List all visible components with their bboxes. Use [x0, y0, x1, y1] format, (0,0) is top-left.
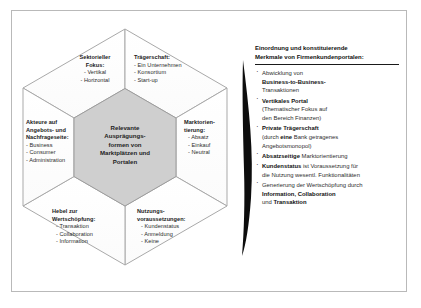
segment-label-marktorientierung: Marktorien- tierung: - Absatz - Einkauf …: [184, 119, 228, 157]
segment-label-hebel-zur-wertschoepfung: Hebel zur Wertschöpfung: - Transaktion -…: [52, 208, 122, 246]
segment-item: - Keine: [137, 238, 207, 246]
segment-item: - Einkauf: [184, 142, 228, 150]
center-hexagon-label: Relevante Ausprägungs- formen von Marktp…: [75, 124, 175, 166]
list-item: Generierung der Wertschöpfung durch Info…: [255, 181, 405, 207]
segment-title-line: Sektorieller: [65, 54, 125, 62]
segment-item: - Konsortium: [134, 69, 212, 77]
center-label-line: Marktplätzen und: [75, 149, 175, 157]
figure-root: Sektorieller Fokus: - Vertikal - Horizon…: [0, 0, 421, 308]
segment-title-line: tierung:: [184, 127, 228, 135]
bullet-line: Absatzseitige Marktorientierung: [262, 152, 405, 161]
list-item: Vertikales Portal (Thematischer Fokus au…: [255, 97, 405, 123]
segment-item: - Horizontal: [65, 77, 125, 85]
panel-title: Einordnung und konstituierende Merkmale …: [255, 44, 405, 62]
list-item: Kundenstatus ist Voraussetzung für die N…: [255, 162, 405, 179]
segment-title-line: Trägerschaft:: [134, 54, 212, 62]
bullet-line: die Nutzung wesentl. Funktionalitäten: [262, 171, 405, 180]
segment-label-sektorieller-fokus: Sektorieller Fokus: - Vertikal - Horizon…: [65, 54, 125, 84]
bullet-line: Kundenstatus ist Voraussetzung für: [262, 162, 405, 171]
segment-title-line: Wertschöpfung:: [52, 216, 122, 224]
segment-item: - Start-up: [134, 77, 212, 85]
bullet-line: Transaktionen: [262, 86, 405, 95]
panel-title-line: Merkmale von Firmenkundenportalen:: [255, 53, 405, 62]
segment-label-nutzungsvoraussetzungen: Nutzungs- voraussetzungen: - Kundenstatu…: [137, 208, 207, 246]
segment-item: - Transaktion: [52, 223, 122, 231]
bullet-line: Business-to-Business-: [262, 78, 405, 87]
center-label-line: Relevante: [75, 124, 175, 132]
bullet-line: Information, Collaboration: [262, 190, 405, 199]
segment-label-traegerschaft: Trägerschaft: - Ein Unternehmen - Konsor…: [134, 54, 212, 84]
list-item: Abwicklung von Business-to-Business- Tra…: [255, 69, 405, 95]
segment-item: - Absatz: [184, 134, 228, 142]
segment-title-line: voraussetzungen:: [137, 216, 207, 224]
bullet-line: den Bereich Finanzen): [262, 114, 405, 123]
side-panel: Einordnung und konstituierende Merkmale …: [255, 44, 405, 209]
center-label-line: Ausprägungs-: [75, 132, 175, 140]
segment-item: - Anmeldung: [137, 231, 207, 239]
segment-item: - Vertikal: [65, 69, 125, 77]
segment-title-line: Fokus:: [65, 62, 125, 70]
bullet-line: und Transaktion: [262, 198, 405, 207]
bullet-line: Private Trägerschaft: [262, 124, 405, 133]
bullet-line: Generierung der Wertschöpfung durch: [262, 181, 405, 190]
lens-arrow: [242, 60, 252, 256]
panel-divider: [255, 64, 399, 65]
segment-item: - Collaboration: [52, 231, 122, 239]
segment-item: - Ein Unternehmen: [134, 62, 212, 70]
segment-title-line: Nutzungs-: [137, 208, 207, 216]
list-item: Absatzseitige Marktorientierung: [255, 152, 405, 161]
list-item: Private Trägerschaft (durch eine Bank ge…: [255, 124, 405, 150]
bullet-line: Vertikales Portal: [262, 97, 405, 106]
panel-bullet-list: Abwicklung von Business-to-Business- Tra…: [255, 69, 405, 207]
bullet-line: Angebotsmonopol): [262, 142, 405, 151]
segment-title-line: Marktorien-: [184, 119, 228, 127]
bullet-line: Abwicklung von: [262, 69, 405, 78]
bullet-line: (Thematischer Fokus auf: [262, 105, 405, 114]
segment-item: - Kundenstatus: [137, 223, 207, 231]
panel-title-line: Einordnung und konstituierende: [255, 44, 405, 53]
segment-item: - Information: [52, 238, 122, 246]
center-label-line: Portalen: [75, 158, 175, 166]
segment-item: - Neutral: [184, 149, 228, 157]
segment-title-line: Hebel zur: [52, 208, 122, 216]
center-label-line: formen von: [75, 141, 175, 149]
bullet-line: (durch eine Bank getragenes: [262, 133, 405, 142]
